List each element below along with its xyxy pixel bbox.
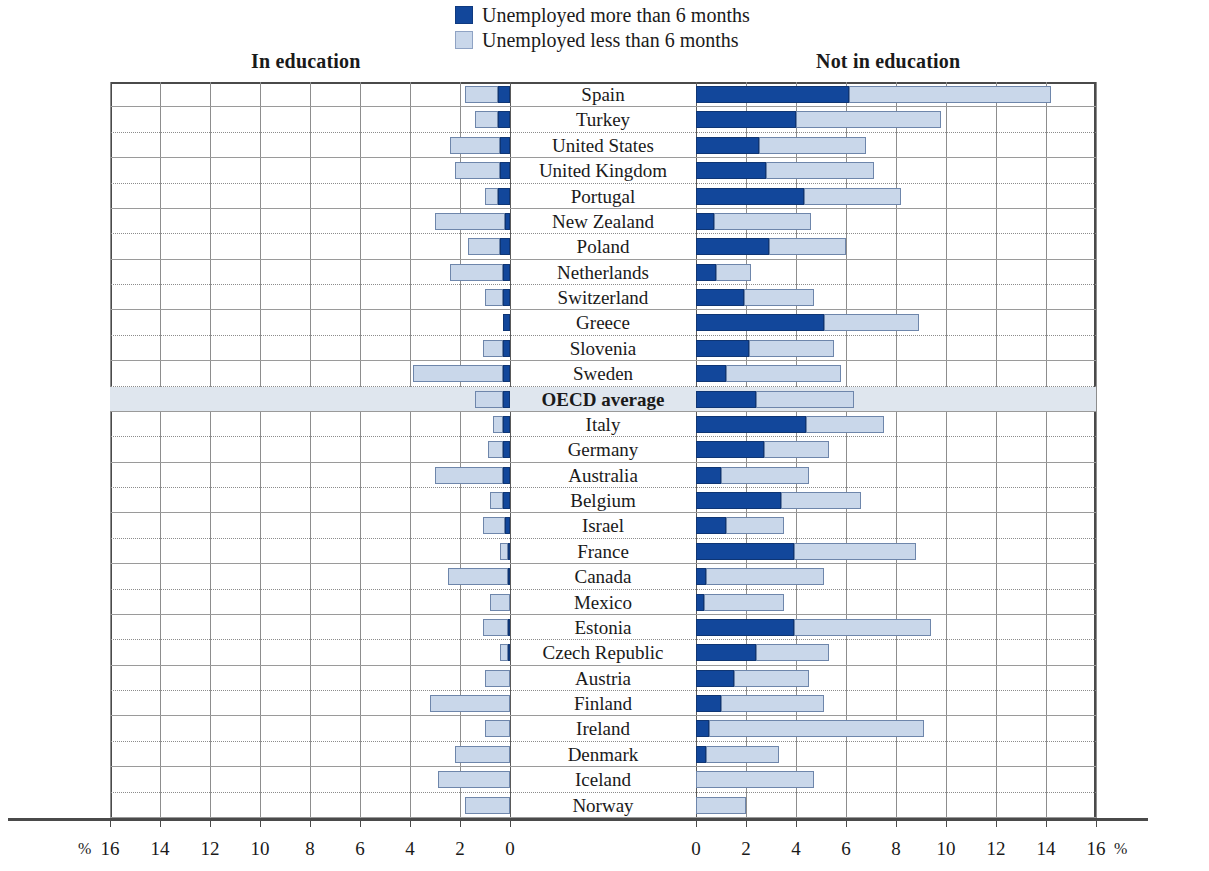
bar-in-education-more-than-6-months: [503, 314, 511, 331]
bar-in-education-more-than-6-months: [503, 264, 511, 281]
country-label-israel: Israel: [510, 513, 696, 538]
axis-baseline: [8, 818, 1148, 821]
bar-in-education-more-than-6-months: [503, 289, 511, 306]
tick-left-0: [510, 818, 511, 827]
bar-in-education-less-than-6-months: [483, 340, 503, 357]
bar-not-in-education-less-than-6-months: [714, 213, 812, 230]
country-label-finland: Finland: [510, 691, 696, 716]
bar-not-in-education-less-than-6-months: [824, 314, 919, 331]
country-label-denmark: Denmark: [510, 742, 696, 767]
bar-not-in-education-less-than-6-months: [766, 162, 874, 179]
country-label-oecd-average: OECD average: [510, 387, 696, 412]
tick-label-right-6: 6: [826, 838, 866, 860]
chart-row: Slovenia: [110, 336, 1096, 361]
bar-in-education-less-than-6-months: [493, 416, 503, 433]
tick-label-left-0: 0: [490, 838, 530, 860]
bar-not-in-education-more-than-6-months: [696, 365, 726, 382]
bar-not-in-education-more-than-6-months: [696, 695, 721, 712]
tick-label-left-10: 10: [240, 838, 280, 860]
bar-not-in-education-more-than-6-months: [696, 264, 716, 281]
bar-not-in-education-more-than-6-months: [696, 111, 796, 128]
bar-in-education-less-than-6-months: [455, 162, 500, 179]
bar-in-education-less-than-6-months: [468, 238, 501, 255]
bar-in-education-less-than-6-months: [483, 619, 508, 636]
tick-right-14: [1046, 818, 1047, 827]
bar-in-education-more-than-6-months: [498, 188, 511, 205]
chart-row: Czech Republic: [110, 640, 1096, 665]
bar-not-in-education-more-than-6-months: [696, 137, 759, 154]
country-label-czech-republic: Czech Republic: [510, 640, 696, 665]
chart-row: Canada: [110, 564, 1096, 589]
country-label-france: France: [510, 539, 696, 564]
chart-row: OECD average: [110, 387, 1096, 412]
bar-in-education-more-than-6-months: [503, 467, 511, 484]
bar-in-education-more-than-6-months: [500, 238, 510, 255]
bar-in-education-less-than-6-months: [488, 441, 503, 458]
country-label-mexico: Mexico: [510, 590, 696, 615]
chart-row: Germany: [110, 437, 1096, 462]
tick-label-right-8: 8: [876, 838, 916, 860]
bar-in-education-less-than-6-months: [435, 467, 503, 484]
country-label-united-states: United States: [510, 133, 696, 158]
bar-in-education-less-than-6-months: [485, 188, 498, 205]
chart-row: Norway: [110, 793, 1096, 818]
bar-not-in-education-more-than-6-months: [696, 188, 804, 205]
bar-not-in-education-less-than-6-months: [769, 238, 847, 255]
country-label-estonia: Estonia: [510, 615, 696, 640]
tick-label-left-14: 14: [140, 838, 180, 860]
tick-label-left-6: 6: [340, 838, 380, 860]
tick-left-16: [110, 818, 111, 827]
bar-not-in-education-more-than-6-months: [696, 492, 781, 509]
bar-not-in-education-more-than-6-months: [696, 746, 706, 763]
chart-row: Italy: [110, 412, 1096, 437]
bar-not-in-education-more-than-6-months: [696, 238, 769, 255]
bar-not-in-education-more-than-6-months: [696, 644, 756, 661]
tick-right-16: [1096, 818, 1097, 827]
country-label-norway: Norway: [510, 793, 696, 818]
bar-not-in-education-less-than-6-months: [734, 670, 809, 687]
tick-right-10: [946, 818, 947, 827]
tick-label-right-10: 10: [926, 838, 966, 860]
chart-row: Switzerland: [110, 285, 1096, 310]
bar-in-education-less-than-6-months: [465, 86, 498, 103]
bar-in-education-less-than-6-months: [438, 771, 511, 788]
bar-in-education-more-than-6-months: [503, 391, 511, 408]
country-label-slovenia: Slovenia: [510, 336, 696, 361]
bar-not-in-education-more-than-6-months: [696, 162, 766, 179]
bar-not-in-education-less-than-6-months: [759, 137, 867, 154]
bar-not-in-education-more-than-6-months: [696, 670, 734, 687]
chart-row: Iceland: [110, 767, 1096, 792]
tick-right-6: [846, 818, 847, 827]
bar-not-in-education-more-than-6-months: [696, 391, 756, 408]
bar-in-education-more-than-6-months: [503, 340, 511, 357]
bar-not-in-education-less-than-6-months: [749, 340, 834, 357]
bar-in-education-less-than-6-months: [475, 111, 498, 128]
bar-not-in-education-more-than-6-months: [696, 213, 714, 230]
bar-in-education-less-than-6-months: [483, 517, 506, 534]
chart-row: Denmark: [110, 742, 1096, 767]
country-label-greece: Greece: [510, 310, 696, 335]
tick-left-12: [210, 818, 211, 827]
chart-root: Unemployed more than 6 months Unemployed…: [0, 0, 1209, 871]
bar-not-in-education-more-than-6-months: [696, 86, 849, 103]
bar-not-in-education-less-than-6-months: [721, 467, 809, 484]
country-label-germany: Germany: [510, 437, 696, 462]
bar-in-education-less-than-6-months: [465, 797, 510, 814]
tick-label-right-0: 0: [676, 838, 716, 860]
tick-label-left-8: 8: [290, 838, 330, 860]
bar-not-in-education-less-than-6-months: [706, 568, 824, 585]
chart-row: Belgium: [110, 488, 1096, 513]
bar-in-education-less-than-6-months: [448, 568, 508, 585]
bar-not-in-education-less-than-6-months: [721, 695, 824, 712]
legend-item-more-than-6-months: Unemployed more than 6 months: [455, 2, 975, 27]
chart-row: Sweden: [110, 361, 1096, 386]
chart-row: Australia: [110, 463, 1096, 488]
bar-not-in-education-more-than-6-months: [696, 340, 749, 357]
bar-not-in-education-less-than-6-months: [756, 644, 829, 661]
legend-label-more-than-6-months: Unemployed more than 6 months: [482, 5, 750, 25]
bar-not-in-education-more-than-6-months: [696, 594, 704, 611]
country-label-poland: Poland: [510, 234, 696, 259]
tick-label-left-16: 16: [90, 838, 130, 860]
country-label-united-kingdom: United Kingdom: [510, 158, 696, 183]
bar-in-education-less-than-6-months: [455, 746, 510, 763]
